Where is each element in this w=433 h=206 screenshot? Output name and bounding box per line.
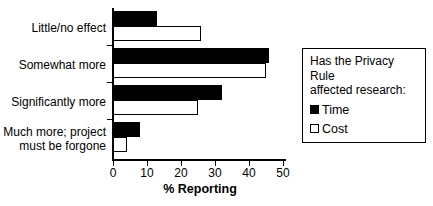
bar-cost-significantly-more (113, 100, 198, 115)
x-axis-label-10: 10 (132, 166, 162, 180)
x-axis-line (112, 159, 286, 161)
x-axis-label-0: 0 (98, 166, 128, 180)
legend-item-time: Time (310, 103, 419, 117)
x-axis-label-30: 30 (200, 166, 230, 180)
bar-cost-much-more-forgone (113, 137, 127, 152)
bar-cost-somewhat-more (113, 63, 266, 78)
bar-chart: Little/no effect Somewhat more Significa… (0, 0, 433, 206)
x-axis-label-50: 50 (268, 166, 298, 180)
filled-square-icon (310, 105, 319, 114)
x-axis-label-20: 20 (166, 166, 196, 180)
legend-label-cost: Cost (322, 122, 348, 136)
category-label-significantly-more: Significantly more (0, 95, 106, 109)
legend: Has the Privacy Rule affected research: … (302, 48, 426, 143)
legend-title-line1: Has the Privacy Rule (310, 54, 419, 83)
x-axis-label-40: 40 (234, 166, 264, 180)
category-label-much-more-line2: must be forgone (0, 139, 106, 153)
bar-time-significantly-more (113, 85, 222, 100)
y-axis-tick-0 (107, 45, 112, 46)
bar-time-somewhat-more (113, 48, 269, 63)
legend-label-time: Time (322, 103, 349, 117)
category-label-somewhat-more: Somewhat more (0, 58, 106, 72)
y-axis-tick-2 (107, 119, 112, 120)
bar-time-much-more-forgone (113, 122, 140, 137)
legend-title-line2: affected research: (310, 83, 419, 98)
category-label-little-no-effect: Little/no effect (0, 21, 106, 35)
bar-time-little-no-effect (113, 11, 157, 26)
bar-cost-little-no-effect (113, 26, 201, 41)
x-axis-title: % Reporting (113, 182, 287, 196)
hollow-square-icon (310, 124, 319, 133)
y-axis-tick-1 (107, 82, 112, 83)
legend-item-cost: Cost (310, 122, 419, 136)
category-label-much-more-line1: Much more; project (0, 125, 106, 139)
